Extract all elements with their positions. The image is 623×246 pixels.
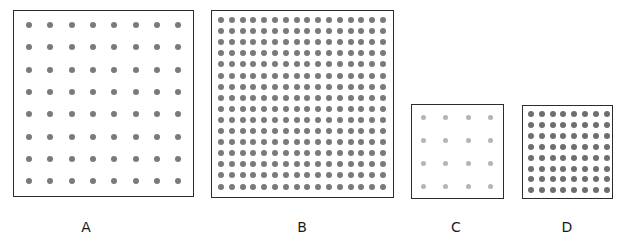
dot xyxy=(240,150,246,156)
dot xyxy=(380,117,386,123)
dot xyxy=(571,155,577,161)
dot xyxy=(337,84,343,90)
dot xyxy=(218,117,224,123)
dot xyxy=(421,115,426,120)
dot xyxy=(175,89,181,95)
dot xyxy=(528,122,534,128)
dot xyxy=(380,84,386,90)
dot xyxy=(466,115,471,120)
dot xyxy=(571,166,577,172)
dot xyxy=(175,134,181,140)
dot xyxy=(69,178,75,184)
dot xyxy=(294,39,300,45)
dot xyxy=(272,106,278,112)
dot xyxy=(175,156,181,162)
dot xyxy=(240,139,246,145)
dot xyxy=(348,150,354,156)
dot xyxy=(315,106,321,112)
dot xyxy=(604,155,610,161)
dot xyxy=(283,17,289,23)
dot xyxy=(348,184,354,190)
dot xyxy=(550,122,556,128)
dot xyxy=(528,111,534,117)
dot xyxy=(528,133,534,139)
dot xyxy=(604,122,610,128)
dot xyxy=(69,111,75,117)
dot xyxy=(240,17,246,23)
dot xyxy=(240,161,246,167)
dot xyxy=(26,156,32,162)
dot xyxy=(337,117,343,123)
dot xyxy=(294,150,300,156)
dot xyxy=(229,150,235,156)
dot xyxy=(240,28,246,34)
dot xyxy=(421,184,426,189)
dot xyxy=(283,95,289,101)
dot xyxy=(261,95,267,101)
dot xyxy=(240,84,246,90)
dot xyxy=(604,144,610,150)
dot xyxy=(154,134,160,140)
dot xyxy=(111,67,117,73)
dot xyxy=(380,128,386,134)
dot xyxy=(240,128,246,134)
dot xyxy=(380,95,386,101)
dot xyxy=(154,22,160,28)
dot xyxy=(571,144,577,150)
dot xyxy=(593,166,599,172)
dot xyxy=(337,128,343,134)
dot xyxy=(550,144,556,150)
dot xyxy=(26,89,32,95)
dot xyxy=(240,117,246,123)
dot xyxy=(582,111,588,117)
dot xyxy=(283,139,289,145)
dot xyxy=(240,106,246,112)
dot xyxy=(133,134,139,140)
dot xyxy=(358,184,364,190)
dot xyxy=(229,17,235,23)
dot xyxy=(272,73,278,79)
panel-label-c: C xyxy=(451,219,461,235)
dot xyxy=(380,17,386,23)
dot xyxy=(294,161,300,167)
dot xyxy=(337,150,343,156)
dot xyxy=(133,44,139,50)
dot xyxy=(304,73,310,79)
dot xyxy=(218,95,224,101)
dot xyxy=(240,73,246,79)
dot xyxy=(582,166,588,172)
dot xyxy=(69,44,75,50)
dot xyxy=(337,73,343,79)
dot xyxy=(69,156,75,162)
dot xyxy=(272,128,278,134)
dot xyxy=(69,89,75,95)
dot xyxy=(348,39,354,45)
dot xyxy=(443,184,448,189)
dot xyxy=(528,144,534,150)
dot xyxy=(550,155,556,161)
dot xyxy=(488,138,493,143)
dot xyxy=(294,184,300,190)
dot xyxy=(443,161,448,166)
dot xyxy=(582,155,588,161)
dot xyxy=(582,144,588,150)
dot xyxy=(229,39,235,45)
dot xyxy=(229,28,235,34)
dot xyxy=(229,95,235,101)
dot xyxy=(229,73,235,79)
dot xyxy=(369,106,375,112)
dot xyxy=(337,17,343,23)
dot xyxy=(528,155,534,161)
dot xyxy=(369,95,375,101)
dot xyxy=(358,73,364,79)
dot xyxy=(348,84,354,90)
dot xyxy=(326,184,332,190)
dot xyxy=(337,106,343,112)
dot xyxy=(133,111,139,117)
dot xyxy=(272,184,278,190)
dot xyxy=(294,128,300,134)
dot xyxy=(175,67,181,73)
dot xyxy=(90,89,96,95)
panel-label-b: B xyxy=(297,219,307,235)
dot xyxy=(380,106,386,112)
